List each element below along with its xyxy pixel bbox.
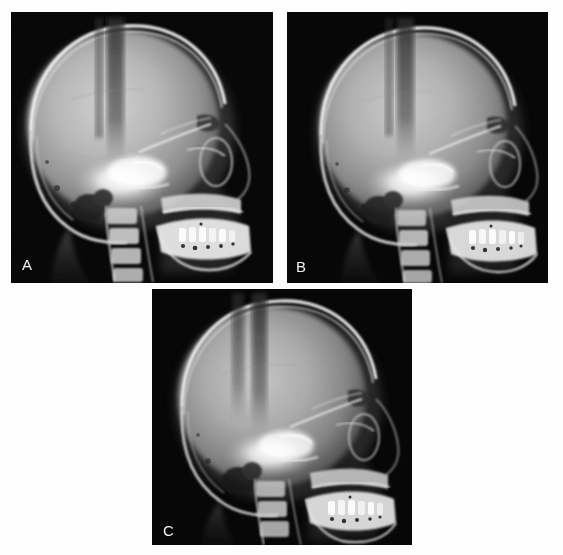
panel-label-a: A xyxy=(22,257,33,272)
panel-label-b: B xyxy=(296,259,307,274)
radiograph-panel-b[interactable]: B xyxy=(287,12,548,283)
figure-root: A xyxy=(0,0,563,555)
radiograph-image-b xyxy=(287,12,548,283)
radiograph-panel-a[interactable]: A xyxy=(11,12,273,283)
radiograph-image-c xyxy=(152,289,412,545)
panel-label-c: C xyxy=(163,523,174,538)
radiograph-image-a xyxy=(11,12,273,283)
radiograph-panel-c[interactable]: C xyxy=(152,289,412,545)
